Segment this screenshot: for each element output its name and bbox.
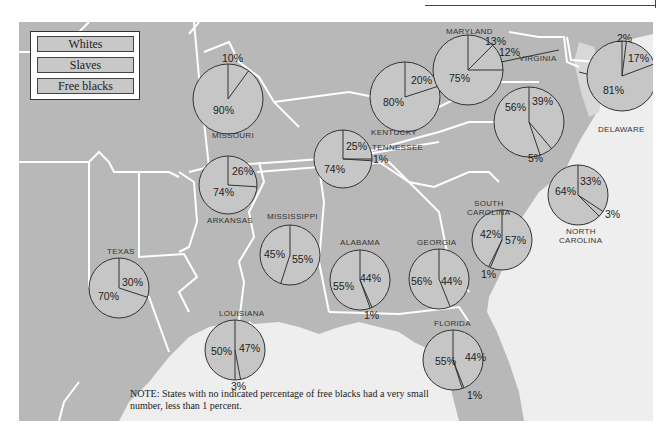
- pct-florida-free: 1%: [467, 389, 482, 401]
- pct-tennessee-slaves: 25%: [346, 140, 367, 152]
- pct-delaware-whites: 81%: [603, 84, 624, 96]
- pct-texas-whites: 70%: [98, 290, 119, 302]
- pct-virginia-whites: 56%: [505, 101, 526, 113]
- pct-south-carolina-whites: 42%: [480, 228, 501, 240]
- pie-texas: [89, 258, 149, 318]
- pct-south-carolina-slaves: 57%: [505, 234, 526, 246]
- label-virginia: VIRGINIA: [519, 54, 557, 63]
- legend: Whites Slaves Free blacks: [30, 31, 140, 100]
- pct-north-carolina-free: 3%: [605, 208, 620, 220]
- label-south-carolina-2: CAROLINA: [467, 208, 510, 217]
- pct-virginia-free: 5%: [528, 152, 543, 164]
- label-georgia: GEORGIA: [417, 238, 456, 247]
- pct-arkansas-whites: 74%: [213, 186, 234, 198]
- pct-florida-slaves: 44%: [465, 351, 486, 363]
- label-missouri: MISSOURI: [212, 131, 254, 140]
- pct-alabama-whites: 55%: [333, 280, 354, 292]
- pie-kentucky: [370, 62, 440, 132]
- pct-kentucky-whites: 80%: [383, 96, 404, 108]
- pct-kentucky-slaves: 20%: [411, 74, 432, 86]
- header-tick: [655, 0, 656, 8]
- pct-alabama-free: 1%: [364, 309, 379, 321]
- pct-maryland-whites: 75%: [449, 72, 470, 84]
- label-north-carolina-1: NORTH: [566, 227, 596, 236]
- pct-mississippi-slaves: 55%: [292, 253, 313, 265]
- label-south-carolina-1: SOUTH: [474, 199, 504, 208]
- label-kentucky: KENTUCKY: [371, 128, 417, 137]
- pie-tennessee: [314, 130, 372, 188]
- pct-north-carolina-whites: 64%: [555, 185, 576, 197]
- label-louisiana: LOUISIANA: [219, 309, 264, 318]
- pct-maryland-free: 12%: [499, 46, 520, 58]
- pct-delaware-slaves: 2%: [617, 32, 632, 44]
- pct-mississippi-whites: 45%: [264, 248, 285, 260]
- pct-missouri-slaves: 10%: [222, 52, 243, 64]
- pct-alabama-slaves: 44%: [360, 272, 381, 284]
- pct-south-carolina-free: 1%: [481, 268, 496, 280]
- legend-item-whites: Whites: [37, 36, 134, 52]
- label-texas: TEXAS: [107, 247, 135, 256]
- header-rule: [425, 5, 655, 6]
- pct-louisiana-whites: 50%: [211, 345, 232, 357]
- label-tennessee: TENNESSEE: [372, 143, 423, 152]
- label-north-carolina-2: CAROLINA: [559, 236, 602, 245]
- label-mississippi: MISSISSIPPI: [267, 212, 318, 221]
- label-florida: FLORIDA: [434, 319, 471, 328]
- label-delaware: DELAWARE: [598, 125, 645, 134]
- pie-missouri: [193, 64, 263, 134]
- pct-virginia-slaves: 39%: [532, 95, 553, 107]
- pct-north-carolina-slaves: 33%: [580, 175, 601, 187]
- pct-missouri-whites: 90%: [213, 104, 234, 116]
- pct-georgia-whites: 56%: [411, 275, 432, 287]
- pct-florida-whites: 55%: [435, 355, 456, 367]
- legend-item-free-blacks: Free blacks: [37, 78, 134, 94]
- pie-virginia: [494, 87, 564, 157]
- map-note: NOTE: States with no indicated percentag…: [130, 388, 430, 412]
- pct-louisiana-slaves: 47%: [239, 342, 260, 354]
- pct-delaware-free: 17%: [628, 52, 649, 64]
- pct-tennessee-whites: 74%: [324, 163, 345, 175]
- label-arkansas: ARKANSAS: [207, 216, 253, 225]
- pct-texas-slaves: 30%: [122, 276, 143, 288]
- pct-georgia-slaves: 44%: [441, 275, 462, 287]
- pct-tennessee-free: 1%: [373, 153, 388, 165]
- label-alabama: ALABAMA: [340, 238, 380, 247]
- legend-item-slaves: Slaves: [37, 57, 134, 73]
- pct-arkansas-slaves: 26%: [232, 165, 253, 177]
